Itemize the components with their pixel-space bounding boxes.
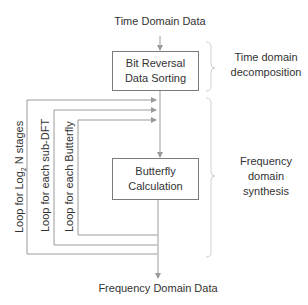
- phase-line: decomposition: [224, 65, 308, 80]
- output-label: Frequency Domain Data: [90, 281, 226, 296]
- phase-line: Time domain: [224, 50, 308, 65]
- frequency-domain-brace: [206, 98, 215, 257]
- loop-label-suffix: N stages: [13, 121, 25, 167]
- butterfly-box: Butterfly Calculation: [112, 158, 199, 200]
- phase-line: Frequency: [224, 154, 308, 169]
- frequency-domain-label: Frequency domain synthesis: [224, 154, 308, 199]
- loop-label-subscript: 2: [20, 167, 27, 171]
- time-domain-label: Time domain decomposition: [224, 50, 308, 80]
- loop-butterfly-label: Loop for each Butterfly: [63, 121, 75, 232]
- loop-label-prefix: Loop for Log: [13, 171, 25, 233]
- box-line: Butterfly: [135, 164, 175, 179]
- phase-line: domain: [224, 169, 308, 184]
- loop-subdft-label: Loop for each sub-DFT: [39, 119, 51, 232]
- bit-reversal-box: Bit Reversal Data Sorting: [112, 51, 199, 91]
- box-line: Calculation: [128, 179, 182, 194]
- time-domain-brace: [206, 42, 215, 91]
- box-line: Data Sorting: [125, 71, 186, 86]
- input-label: Time Domain Data: [100, 14, 220, 29]
- loop-stages-label: Loop for Log2 N stages: [13, 121, 27, 233]
- box-line: Bit Reversal: [126, 56, 185, 71]
- phase-line: synthesis: [224, 184, 308, 199]
